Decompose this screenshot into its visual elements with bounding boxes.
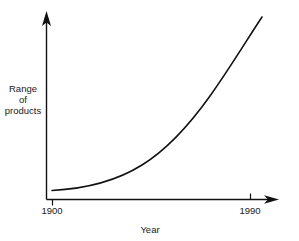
y-axis-label-line-1: Range bbox=[2, 83, 44, 94]
chart-figure: Range of products 1900 1990 Year bbox=[0, 0, 299, 241]
y-axis-label: Range of products bbox=[2, 83, 44, 116]
y-axis-label-line-2: of bbox=[2, 94, 44, 105]
x-axis-label: Year bbox=[120, 224, 180, 235]
x-tick-label-1990: 1990 bbox=[234, 205, 266, 216]
y-axis-label-line-3: products bbox=[2, 105, 44, 116]
x-tick-label-1900: 1900 bbox=[36, 205, 68, 216]
growth-curve bbox=[52, 17, 262, 191]
